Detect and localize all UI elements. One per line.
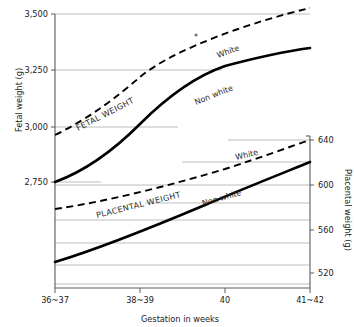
xtick-label-41-42: 41~42 [296,295,324,305]
ytick-label-640: 640 [318,135,334,145]
chart-figure: * White Non white White Non white FETAL … [0,0,354,327]
fetal-nonwhite-series-label: Non white [193,83,234,107]
placental-weight-block-label: PLACENTAL WEIGHT [95,190,182,220]
y-axis-title-fetal: Fetal weight (g) [14,68,24,132]
y-ticks-right [310,140,314,273]
xtick-label-38-39: 38~39 [126,295,154,305]
fetal-weight-curves [55,8,310,182]
growth-chart-svg: * White Non white White Non white FETAL … [0,0,354,327]
xtick-label-40: 40 [220,295,230,305]
xtick-label-36-37: 36~37 [41,295,69,305]
placental-nonwhite-solid-line [55,162,310,262]
placental-nonwhite-series-label: Non white [201,188,242,208]
ytick-label-560: 560 [318,225,334,235]
x-tick-labels: 36~37 38~39 40 41~42 [41,295,324,305]
ytick-label-3250: 3,250 [25,65,48,75]
y-axis-title-placental: Placental weight (g) [343,169,353,251]
asterisk-annotation: * [194,33,198,42]
x-ticks [55,288,310,293]
y-tick-labels-right: 640 600 560 520 [318,135,334,278]
ytick-label-3000: 3,000 [25,122,48,132]
ytick-label-3500: 3,500 [25,9,48,19]
placental-weight-curves [55,140,310,262]
y-ticks-left [51,14,55,182]
placental-white-dashed-line [55,140,310,209]
fetal-white-series-label: White [216,43,241,59]
ytick-label-520: 520 [318,268,334,278]
y-tick-labels-left: 3,500 3,250 3,000 2,750 [25,9,48,187]
placental-white-series-label: White [234,148,259,162]
ytick-label-2750: 2,750 [25,177,48,187]
x-axis-title: Gestation in weeks [141,314,219,324]
gridlines-fetal [55,14,310,182]
ytick-label-600: 600 [318,180,334,190]
